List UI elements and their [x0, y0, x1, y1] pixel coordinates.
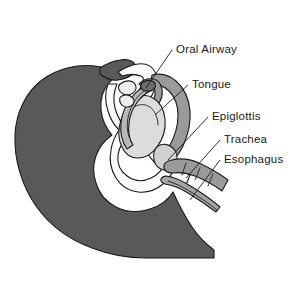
- airway-flange: [141, 81, 156, 92]
- label-epiglottis: Epiglottis: [212, 110, 261, 122]
- label-trachea: Trachea: [224, 133, 268, 145]
- label-oral-airway: Oral Airway: [176, 43, 237, 55]
- lower-teeth: [120, 95, 134, 107]
- upper-teeth: [119, 81, 136, 95]
- label-esophagus: Esophagus: [224, 153, 283, 165]
- label-tongue: Tongue: [192, 78, 231, 90]
- anatomy-illustration: Oral Airway Tongue Epiglottis Trachea Es…: [0, 0, 300, 288]
- anatomy-figure: Oral Airway Tongue Epiglottis Trachea Es…: [0, 0, 300, 288]
